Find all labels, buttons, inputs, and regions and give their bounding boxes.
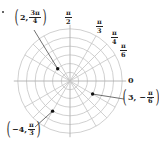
- angle-label-pi-over-4: π4: [111, 30, 118, 45]
- point-3-neg-pi-6-label: (3, −π6): [121, 88, 159, 106]
- fraction-denominator: 3: [29, 130, 34, 137]
- stray-mark: [2, 11, 4, 13]
- fraction-denominator: 6: [148, 98, 153, 105]
- fraction-denominator: 4: [33, 18, 38, 25]
- fraction-denominator: 6: [121, 51, 126, 58]
- left-paren: (: [14, 8, 18, 26]
- right-paren: ): [42, 8, 46, 26]
- right-paren: ): [155, 88, 159, 106]
- point-3-neg-pi-6: [91, 92, 94, 95]
- fraction-denominator: 2: [66, 18, 71, 25]
- fraction: 3π4: [29, 10, 40, 25]
- angle-label-zero: 0: [128, 75, 134, 85]
- point-2-3pi-4: [56, 67, 59, 70]
- label-prefix: −4,: [12, 125, 27, 133]
- fraction: π6: [147, 90, 154, 105]
- fraction-numerator: π: [65, 10, 72, 18]
- point-neg4-pi-3: [51, 109, 54, 112]
- fraction: π3: [28, 122, 35, 137]
- fraction-numerator: π: [111, 30, 118, 38]
- point-2-3pi-4-label: (2, 3π4): [13, 8, 48, 26]
- fraction-numerator: π: [120, 43, 127, 51]
- fraction-numerator: π: [96, 19, 103, 27]
- fraction-denominator: 3: [97, 27, 102, 34]
- angle-label-pi-over-3: π3: [96, 19, 103, 34]
- angle-label-pi-over-6: π6: [120, 43, 127, 58]
- right-paren: ): [36, 120, 40, 138]
- left-paren: (: [122, 88, 126, 106]
- label-prefix: 2,: [20, 13, 28, 21]
- label-prefix: 3, −: [128, 93, 146, 101]
- point-2-3pi-4-leader: [34, 30, 58, 69]
- angle-label-pi-over-2: π2: [65, 10, 72, 25]
- fraction-denominator: 4: [112, 38, 117, 45]
- point-neg4-pi-3-label: (−4, π3): [5, 120, 42, 138]
- left-paren: (: [6, 120, 10, 138]
